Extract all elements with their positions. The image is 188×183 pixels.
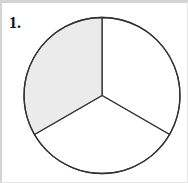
pie-chart (0, 0, 188, 183)
